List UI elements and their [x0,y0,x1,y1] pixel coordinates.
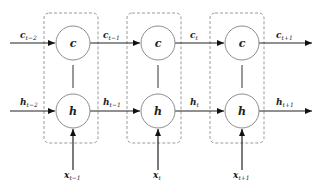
c-node-label-1: c [70,37,77,50]
h-node-label-1: h [69,105,77,118]
c-node-label-3: c [239,37,246,50]
c-label-t-1: ct−1 [103,30,120,41]
c-label-t: ct [190,30,198,41]
x-label-t-1: xt−1 [63,170,81,181]
c-label-t-2: ct−2 [20,30,37,41]
x-label-t: xt [152,170,161,181]
h-node-label-2: h [154,105,162,118]
h-label-t-2: ht−2 [20,97,38,108]
c-label-t+1: ct+1 [276,30,293,41]
h-node-label-3: h [238,105,246,118]
h-label-t: ht [190,97,200,108]
h-label-t-1: ht−1 [103,97,121,108]
lstm-diagram: c h c h c h ct−2 ct−1 ct ct+1 ht−2 ht−1 … [0,0,320,181]
h-label-t+1: ht+1 [276,97,294,108]
x-label-t+1: xt+1 [232,170,250,181]
c-node-label-2: c [155,37,162,50]
